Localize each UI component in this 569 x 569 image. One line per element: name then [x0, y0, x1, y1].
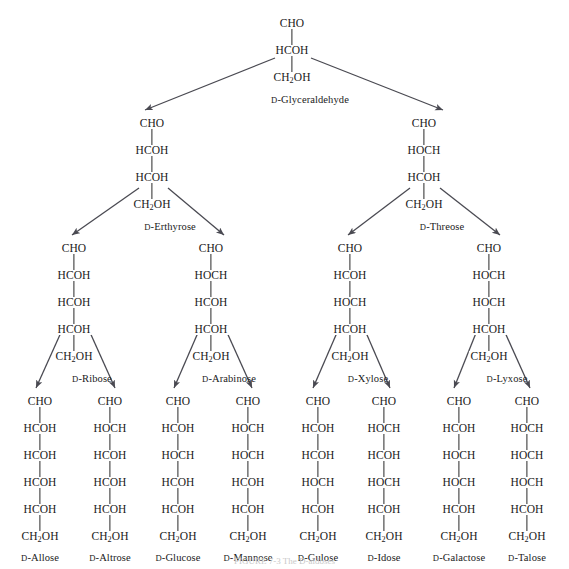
- formula-row: CHO: [90, 396, 130, 423]
- formula-row: CHO: [272, 18, 312, 45]
- formula-row: CH2OH: [20, 531, 60, 542]
- formula-text: HOCH: [406, 145, 442, 156]
- formula-text: CHO: [138, 118, 166, 129]
- formula-row: HCOH: [54, 297, 94, 324]
- formula-row: HOCH: [90, 423, 130, 450]
- formula-text: HCOH: [56, 324, 92, 335]
- formula-text: CHO: [60, 243, 88, 254]
- bond-line: [349, 253, 350, 270]
- bond-line: [317, 514, 318, 531]
- formula-text: HOCH: [366, 477, 402, 488]
- formula-text: CHO: [164, 396, 192, 407]
- formula-row: HOCH: [439, 477, 479, 504]
- bond-line: [151, 128, 152, 145]
- formula-text: HCOH: [300, 450, 336, 461]
- bond-line: [291, 28, 292, 45]
- bond-line: [109, 514, 110, 531]
- formula-text: CH2OH: [364, 531, 404, 545]
- formula-row: HCOH: [90, 477, 130, 504]
- formula-text: HOCH: [332, 297, 368, 308]
- bond-line: [458, 433, 459, 450]
- bond-line: [423, 155, 424, 172]
- bond-line: [177, 487, 178, 504]
- bond-line: [526, 433, 527, 450]
- formula-row: HOCH: [364, 477, 404, 504]
- formula-text: HCOH: [274, 45, 310, 56]
- bond-line: [177, 460, 178, 477]
- formula-row: HCOH: [20, 423, 60, 450]
- formula-row: CH2OH: [90, 531, 130, 542]
- formula-row: CH2OH: [54, 351, 94, 362]
- formula-row: CHO: [404, 118, 444, 145]
- bond-line: [526, 460, 527, 477]
- formula-row: HCOH: [54, 270, 94, 297]
- bond-line: [317, 487, 318, 504]
- formula-row: CH2OH: [298, 531, 338, 542]
- bond-line: [291, 55, 292, 72]
- formula-row: CH2OH: [507, 531, 547, 542]
- formula-text: HOCH: [471, 270, 507, 281]
- formula-text: HCOH: [92, 477, 128, 488]
- formula-text: HOCH: [160, 450, 196, 461]
- formula-row: HCOH: [132, 145, 172, 172]
- formula-row: HOCH: [191, 270, 231, 297]
- bond-line: [109, 406, 110, 423]
- formula-text: CHO: [445, 396, 473, 407]
- formula-row: HOCH: [507, 450, 547, 477]
- formula-text: CH2OH: [330, 351, 370, 365]
- formula-row: CHO: [132, 118, 172, 145]
- formula-text: CH2OH: [20, 531, 60, 545]
- formula-row: CH2OH: [191, 351, 231, 362]
- molecule-galactose: CHOHCOHHOCHHOCHHCOHCH2OH: [439, 396, 479, 542]
- bond-line: [210, 334, 211, 351]
- formula-text: HOCH: [441, 477, 477, 488]
- formula-text: HCOH: [441, 504, 477, 515]
- arrow-threose-to-xylose: [348, 188, 410, 235]
- molecule-label-threose: D-Threose: [420, 221, 465, 232]
- formula-row: HCOH: [330, 270, 370, 297]
- formula-row: HCOH: [158, 423, 198, 450]
- bond-line: [458, 514, 459, 531]
- bond-line: [383, 514, 384, 531]
- molecule-label-glyceraldehyde: D-Glyceraldehyde: [271, 94, 349, 105]
- bond-line: [317, 433, 318, 450]
- formula-row: CHO: [158, 396, 198, 423]
- bond-line: [73, 307, 74, 324]
- formula-text: CH2OH: [507, 531, 547, 545]
- bond-line: [383, 433, 384, 450]
- bond-line: [109, 433, 110, 450]
- bond-line: [458, 406, 459, 423]
- bond-line: [177, 514, 178, 531]
- formula-text: CH2OH: [191, 351, 231, 365]
- bond-line: [39, 460, 40, 477]
- formula-text: HCOH: [332, 324, 368, 335]
- bond-line: [349, 334, 350, 351]
- formula-row: CHO: [439, 396, 479, 423]
- formula-text: CHO: [197, 243, 225, 254]
- bond-line: [488, 280, 489, 297]
- formula-text: HCOH: [441, 423, 477, 434]
- bond-line: [423, 128, 424, 145]
- arrow-erythrose-to-ribose: [72, 188, 139, 235]
- formula-row: HCOH: [90, 504, 130, 531]
- molecule-idose: CHOHOCHHCOHHOCHHCOHCH2OH: [364, 396, 404, 542]
- bond-line: [247, 487, 248, 504]
- formula-text: HOCH: [300, 477, 336, 488]
- formula-row: HCOH: [298, 504, 338, 531]
- formula-text: HCOH: [160, 504, 196, 515]
- formula-text: CH2OH: [228, 531, 268, 545]
- formula-text: HCOH: [56, 270, 92, 281]
- formula-row: HOCH: [507, 477, 547, 504]
- molecule-ribose: CHOHCOHHCOHHCOHCH2OH: [54, 243, 94, 362]
- formula-text: HCOH: [406, 172, 442, 183]
- molecule-erythrose: CHOHCOHHCOHCH2OH: [132, 118, 172, 210]
- bond-line: [210, 253, 211, 270]
- bond-line: [73, 253, 74, 270]
- bond-line: [349, 307, 350, 324]
- bond-line: [383, 460, 384, 477]
- bond-line: [39, 406, 40, 423]
- bond-line: [210, 307, 211, 324]
- formula-row: HOCH: [330, 297, 370, 324]
- formula-text: CHO: [304, 396, 332, 407]
- formula-row: HOCH: [298, 477, 338, 504]
